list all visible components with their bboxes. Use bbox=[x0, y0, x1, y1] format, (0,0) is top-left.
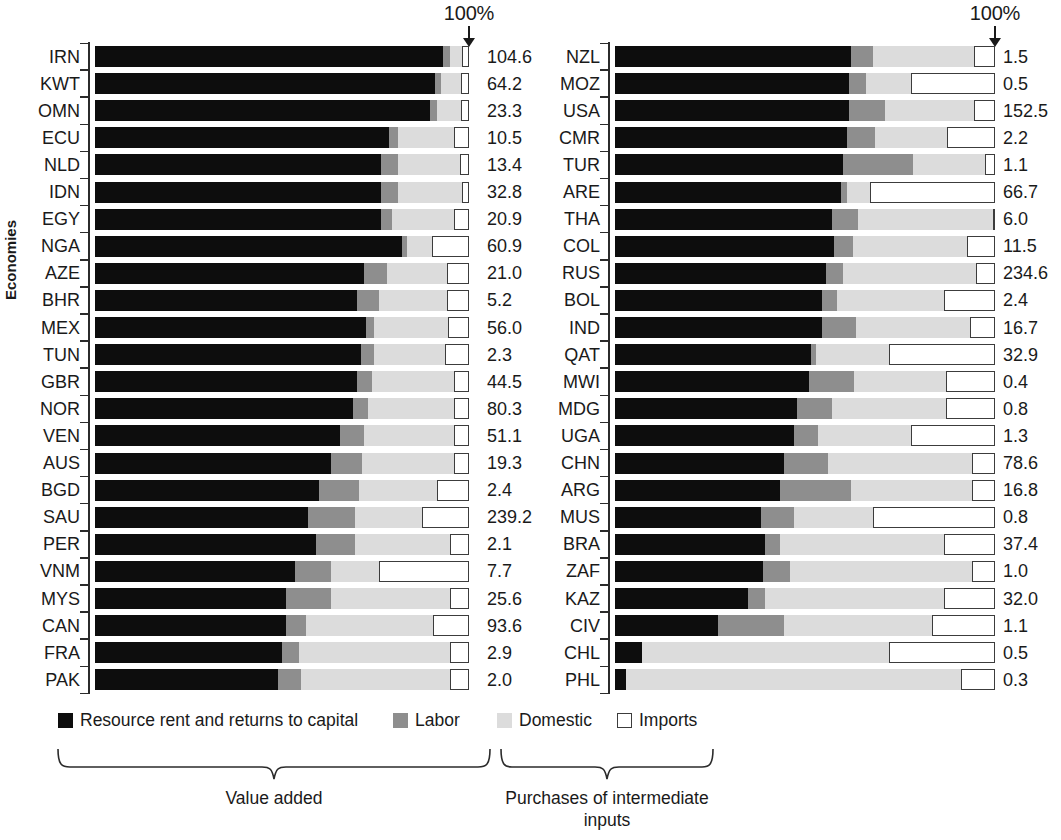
stacked-bar[interactable] bbox=[95, 263, 469, 284]
stacked-bar[interactable] bbox=[615, 561, 995, 582]
stacked-bar[interactable] bbox=[615, 371, 995, 392]
stacked-bar[interactable] bbox=[615, 615, 995, 636]
bar-value-label: 5.2 bbox=[487, 290, 512, 311]
axis-tick bbox=[600, 96, 609, 98]
stacked-bar[interactable] bbox=[615, 344, 995, 365]
bar-segment-labor bbox=[340, 425, 364, 446]
bar-segment-imports bbox=[454, 371, 469, 392]
stacked-bar[interactable] bbox=[95, 127, 469, 148]
bar-segment-domestic bbox=[359, 480, 438, 501]
stacked-bar[interactable] bbox=[615, 154, 995, 175]
stacked-bar[interactable] bbox=[95, 209, 469, 230]
stacked-bar[interactable] bbox=[615, 209, 995, 230]
brace-intermediate-inputs bbox=[501, 749, 713, 779]
stacked-bar[interactable] bbox=[95, 480, 469, 501]
stacked-bar[interactable] bbox=[95, 100, 469, 121]
stacked-bar[interactable] bbox=[615, 182, 995, 203]
stacked-bar[interactable] bbox=[615, 317, 995, 338]
stacked-bar[interactable] bbox=[615, 480, 995, 501]
bar-segment-imports bbox=[450, 669, 469, 690]
stacked-bar[interactable] bbox=[95, 425, 469, 446]
bar-segment-domestic bbox=[331, 588, 451, 609]
category-label: CHL bbox=[530, 643, 600, 664]
bar-segment-labor bbox=[357, 371, 372, 392]
axis-tick bbox=[80, 584, 89, 586]
bar-segment-labor bbox=[822, 317, 856, 338]
stacked-bar[interactable] bbox=[615, 669, 995, 690]
bar-segment-capital bbox=[615, 46, 851, 67]
bar-segment-imports bbox=[460, 154, 469, 175]
bar-segment-labor bbox=[826, 263, 843, 284]
bar-segment-capital bbox=[95, 344, 361, 365]
bar-segment-capital bbox=[615, 263, 826, 284]
stacked-bar[interactable] bbox=[615, 398, 995, 419]
bar-segment-imports bbox=[448, 317, 469, 338]
legend-swatch-domestic-icon bbox=[497, 713, 512, 728]
stacked-bar[interactable] bbox=[95, 642, 469, 663]
stacked-bar[interactable] bbox=[95, 344, 469, 365]
bar-segment-domestic bbox=[331, 561, 380, 582]
stacked-bar[interactable] bbox=[615, 46, 995, 67]
stacked-bar[interactable] bbox=[615, 127, 995, 148]
legend-label: Resource rent and returns to capital bbox=[80, 710, 358, 731]
axis-tick bbox=[600, 340, 609, 342]
stacked-bar[interactable] bbox=[615, 642, 995, 663]
stacked-bar[interactable] bbox=[615, 100, 995, 121]
stacked-bar[interactable] bbox=[95, 182, 469, 203]
bar-segment-imports bbox=[461, 100, 469, 121]
stacked-bar[interactable] bbox=[95, 534, 469, 555]
axis-tick bbox=[600, 151, 609, 153]
stacked-bar[interactable] bbox=[95, 290, 469, 311]
axis-tick bbox=[80, 611, 89, 613]
stacked-bar[interactable] bbox=[95, 588, 469, 609]
bar-segment-imports bbox=[447, 263, 469, 284]
category-label: IRN bbox=[0, 47, 80, 68]
category-label: PAK bbox=[0, 670, 80, 691]
stacked-bar[interactable] bbox=[95, 453, 469, 474]
category-label: AZE bbox=[0, 263, 80, 284]
stacked-bar[interactable] bbox=[615, 453, 995, 474]
axis-tick bbox=[600, 232, 609, 234]
stacked-bar[interactable] bbox=[95, 615, 469, 636]
stacked-bar[interactable] bbox=[95, 73, 469, 94]
stacked-bar[interactable] bbox=[95, 398, 469, 419]
stacked-bar[interactable] bbox=[95, 46, 469, 67]
bar-segment-labor bbox=[316, 534, 355, 555]
stacked-bar[interactable] bbox=[95, 371, 469, 392]
axis-tick bbox=[80, 638, 89, 640]
category-label: KWT bbox=[0, 74, 80, 95]
bar-segment-imports bbox=[911, 425, 995, 446]
stacked-bar[interactable] bbox=[615, 290, 995, 311]
legend-item-domestic[interactable]: Domestic bbox=[497, 710, 592, 731]
bar-segment-imports bbox=[454, 398, 469, 419]
bar-segment-labor bbox=[761, 507, 793, 528]
legend-label: Imports bbox=[639, 710, 697, 731]
stacked-bar[interactable] bbox=[95, 154, 469, 175]
bar-segment-imports bbox=[454, 425, 469, 446]
bar-segment-labor bbox=[308, 507, 355, 528]
stacked-bar[interactable] bbox=[615, 73, 995, 94]
stacked-bar[interactable] bbox=[95, 236, 469, 257]
bar-value-label: 2.9 bbox=[487, 643, 512, 664]
bar-segment-capital bbox=[615, 236, 834, 257]
stacked-bar[interactable] bbox=[95, 561, 469, 582]
stacked-bar[interactable] bbox=[615, 263, 995, 284]
legend-item-capital[interactable]: Resource rent and returns to capital bbox=[58, 710, 358, 731]
stacked-bar[interactable] bbox=[615, 236, 995, 257]
stacked-bar[interactable] bbox=[615, 425, 995, 446]
legend-item-imports[interactable]: Imports bbox=[617, 710, 697, 731]
bar-segment-domestic bbox=[913, 154, 985, 175]
axis-tick bbox=[80, 693, 89, 695]
stacked-bar[interactable] bbox=[615, 534, 995, 555]
bar-segment-labor bbox=[430, 100, 437, 121]
stacked-bar[interactable] bbox=[615, 588, 995, 609]
bar-value-label: 19.3 bbox=[487, 453, 522, 474]
bar-segment-labor bbox=[822, 290, 837, 311]
legend-item-labor[interactable]: Labor bbox=[393, 710, 460, 731]
stacked-bar[interactable] bbox=[615, 507, 995, 528]
axis-tick bbox=[600, 43, 609, 45]
stacked-bar[interactable] bbox=[95, 317, 469, 338]
axis-tick bbox=[600, 557, 609, 559]
stacked-bar[interactable] bbox=[95, 669, 469, 690]
stacked-bar[interactable] bbox=[95, 507, 469, 528]
